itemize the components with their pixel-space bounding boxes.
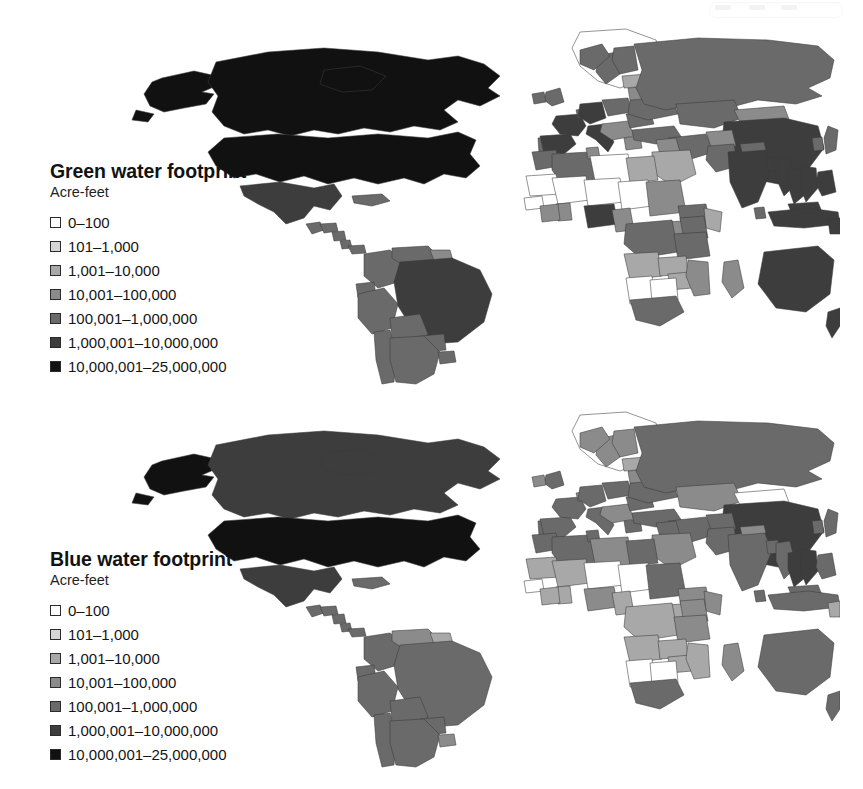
country-nepal — [740, 142, 766, 152]
country-cuba — [352, 577, 390, 589]
country-ivorycoast — [540, 204, 560, 222]
legend-title: Green water footprint — [50, 160, 246, 182]
legend-label: 1,001–10,000 — [68, 263, 160, 278]
country-papua — [828, 218, 840, 234]
country-egypt — [626, 156, 658, 183]
world-map-svg-blue — [128, 409, 840, 769]
country-egypt — [626, 539, 658, 566]
country-ivorycoast — [540, 587, 560, 605]
country-japan — [824, 509, 838, 537]
legend-swatch-class-6 — [50, 361, 61, 372]
country-nicaragua — [332, 614, 346, 624]
legend-swatch-class-4 — [50, 313, 61, 324]
legend-swatch-class-6 — [50, 749, 61, 760]
country-alaska — [132, 71, 216, 122]
country-usa — [208, 515, 480, 567]
country-southafrica — [630, 296, 684, 326]
legend-row: 100,001–1,000,000 — [50, 306, 246, 330]
country-cuba — [352, 194, 390, 206]
legend-swatch-class-2 — [50, 653, 61, 664]
country-ireland — [532, 475, 546, 487]
legend-row: 101–1,000 — [50, 234, 246, 258]
map-blue-water-footprint — [128, 409, 840, 769]
country-australia — [758, 629, 834, 695]
legend-swatch-class-3 — [50, 677, 61, 688]
country-newzealand — [826, 308, 840, 338]
legend-title: Blue water footprint — [50, 548, 232, 570]
country-russia — [634, 38, 834, 110]
legend-row: 1,001–10,000 — [50, 646, 232, 670]
country-russia — [634, 421, 834, 493]
legend-rows: 0–100101–1,0001,001–10,00010,001–100,000… — [50, 210, 246, 378]
country-madagascar — [722, 260, 744, 298]
country-ireland — [532, 92, 546, 104]
legend-label: 100,001–1,000,000 — [68, 699, 197, 714]
country-tanzania — [674, 232, 710, 260]
legend-label: 0–100 — [68, 603, 110, 618]
country-uk — [544, 88, 564, 106]
country-newzealand — [826, 691, 840, 721]
legend-label: 10,001–100,000 — [68, 287, 176, 302]
country-angola — [624, 635, 662, 663]
legend-row: 0–100 — [50, 210, 246, 234]
legend-row: 10,000,001–25,000,000 — [50, 742, 232, 766]
country-uk — [544, 471, 564, 489]
country-somalia — [704, 208, 722, 232]
country-korea — [812, 520, 824, 534]
legend-swatch-class-0 — [50, 605, 61, 616]
country-india — [728, 531, 772, 591]
country-canada — [208, 431, 500, 519]
legend-label: 101–1,000 — [68, 239, 139, 254]
legend-swatch-class-0 — [50, 217, 61, 228]
country-poland — [602, 481, 632, 499]
legend-swatch-class-1 — [50, 629, 61, 640]
legend-label: 0–100 — [68, 215, 110, 230]
legend-label: 10,001–100,000 — [68, 675, 176, 690]
water-footprint-figure: Green water footprint Acre-feet 0–100101… — [0, 0, 863, 789]
legend-row: 10,000,001–25,000,000 — [50, 354, 246, 378]
legend-row: 1,001–10,000 — [50, 258, 246, 282]
country-philippines — [816, 170, 836, 196]
country-uruguay — [438, 351, 456, 364]
legend-swatch-class-1 — [50, 241, 61, 252]
legend-swatch-class-5 — [50, 725, 61, 736]
country-mozambique — [686, 643, 710, 679]
scan-artifact — [715, 2, 835, 18]
legend-label: 1,001–10,000 — [68, 651, 160, 666]
country-usa — [208, 132, 480, 184]
legend-swatch-class-5 — [50, 337, 61, 348]
country-panama — [348, 628, 366, 637]
legend-row: 10,001–100,000 — [50, 670, 232, 694]
legend-blue-water-footprint: Blue water footprint Acre-feet 0–100101–… — [50, 548, 232, 766]
legend-units: Acre-feet — [50, 183, 246, 201]
country-madagascar — [722, 643, 744, 681]
legend-units: Acre-feet — [50, 571, 232, 589]
country-southafrica — [630, 679, 684, 709]
country-mexico — [240, 565, 342, 607]
legend-label: 1,000,001–10,000,000 — [68, 335, 218, 350]
country-canada — [208, 48, 500, 136]
legend-rows: 0–100101–1,0001,001–10,00010,001–100,000… — [50, 598, 232, 766]
country-mexico — [240, 182, 342, 224]
legend-row: 0–100 — [50, 598, 232, 622]
legend-label: 10,000,001–25,000,000 — [68, 747, 227, 762]
legend-row: 101–1,000 — [50, 622, 232, 646]
country-nepal — [740, 525, 766, 535]
legend-label: 1,000,001–10,000,000 — [68, 723, 218, 738]
country-tanzania — [674, 615, 710, 643]
country-uruguay — [438, 734, 456, 747]
country-philippines — [816, 553, 836, 579]
country-angola — [624, 252, 662, 280]
country-nicaragua — [332, 231, 346, 241]
country-india — [728, 148, 772, 208]
country-somalia — [704, 591, 722, 615]
legend-row: 1,000,001–10,000,000 — [50, 330, 246, 354]
legend-swatch-class-2 — [50, 265, 61, 276]
country-mozambique — [686, 260, 710, 296]
country-panama — [348, 245, 366, 254]
legend-row: 10,001–100,000 — [50, 282, 246, 306]
legend-swatch-class-4 — [50, 701, 61, 712]
country-australia — [758, 246, 834, 312]
legend-green-water-footprint: Green water footprint Acre-feet 0–100101… — [50, 160, 246, 378]
legend-swatch-class-3 — [50, 289, 61, 300]
